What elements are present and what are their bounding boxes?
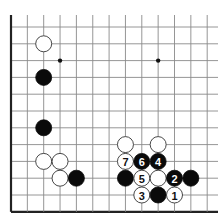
move-number: 4 xyxy=(155,156,162,168)
white-stone-icon xyxy=(150,137,166,153)
white-stone xyxy=(52,153,68,169)
white-stone xyxy=(150,137,166,153)
white-stone-icon xyxy=(36,153,52,169)
go-board: 7645231 xyxy=(0,0,224,222)
white-stone-icon xyxy=(150,170,166,186)
black-stone xyxy=(36,120,52,136)
black-stone-icon xyxy=(36,69,52,85)
star-point-icon xyxy=(156,58,160,62)
white-stone xyxy=(117,137,133,153)
white-stone-move-3: 3 xyxy=(134,187,150,203)
white-stone-icon xyxy=(52,170,68,186)
white-stone xyxy=(52,170,68,186)
black-stone-icon xyxy=(36,120,52,136)
black-stone-move-6: 6 xyxy=(134,153,150,169)
white-stone-move-7: 7 xyxy=(117,153,133,169)
black-stone-icon xyxy=(150,187,166,203)
move-number: 3 xyxy=(139,190,145,202)
white-stone xyxy=(150,170,166,186)
white-stone xyxy=(36,36,52,52)
move-number: 1 xyxy=(171,190,177,202)
black-stone-icon xyxy=(183,170,199,186)
black-stone-icon xyxy=(117,170,133,186)
star-point-icon xyxy=(58,58,62,62)
white-stone-icon xyxy=(52,153,68,169)
black-stone-move-4: 4 xyxy=(150,153,166,169)
white-stone-move-5: 5 xyxy=(134,170,150,186)
go-board-diagram: 7645231 xyxy=(0,0,224,222)
white-stone xyxy=(36,153,52,169)
black-stone-icon xyxy=(68,170,84,186)
black-stone xyxy=(150,187,166,203)
white-stone-move-1: 1 xyxy=(167,187,183,203)
move-number: 6 xyxy=(139,156,145,168)
black-stone xyxy=(68,170,84,186)
move-number: 7 xyxy=(122,156,128,168)
white-stone-icon xyxy=(117,137,133,153)
move-number: 2 xyxy=(171,173,177,185)
black-stone xyxy=(117,170,133,186)
black-stone-move-2: 2 xyxy=(167,170,183,186)
white-stone-icon xyxy=(36,36,52,52)
black-stone xyxy=(36,69,52,85)
move-number: 5 xyxy=(139,173,145,185)
black-stone xyxy=(183,170,199,186)
